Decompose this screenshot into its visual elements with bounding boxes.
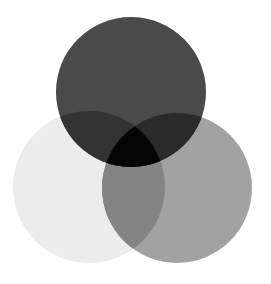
venn-diagram — [0, 0, 271, 284]
